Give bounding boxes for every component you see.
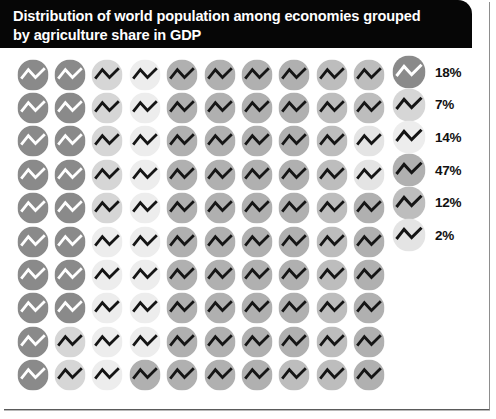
waffle-cell — [164, 91, 201, 124]
waffle-cell — [51, 325, 88, 358]
waffle-cell — [276, 158, 313, 191]
waffle-cell — [164, 192, 201, 225]
waffle-cell — [14, 292, 51, 325]
waffle-cell — [126, 258, 163, 291]
legend-item[interactable]: 18% — [392, 56, 484, 89]
waffle-cell — [351, 58, 388, 91]
waffle-cell — [238, 258, 275, 291]
waffle-cell — [126, 125, 163, 158]
waffle-cell — [201, 91, 238, 124]
waffle-cell — [238, 58, 275, 91]
waffle-cell — [89, 225, 126, 258]
waffle-cell — [89, 292, 126, 325]
waffle-cell — [14, 258, 51, 291]
legend-swatch-zigzag-line-icon — [392, 120, 426, 154]
waffle-cell — [313, 359, 350, 392]
waffle-cell — [51, 91, 88, 124]
waffle-cell — [238, 292, 275, 325]
waffle-cell — [201, 225, 238, 258]
waffle-cell — [238, 91, 275, 124]
waffle-cell — [51, 292, 88, 325]
waffle-cell — [276, 192, 313, 225]
waffle-cell — [276, 225, 313, 258]
waffle-cell — [351, 125, 388, 158]
waffle-cell — [89, 325, 126, 358]
waffle-cell — [126, 325, 163, 358]
waffle-cell — [89, 192, 126, 225]
waffle-cell — [164, 125, 201, 158]
waffle-cell — [351, 359, 388, 392]
legend-item[interactable]: 7% — [392, 89, 484, 122]
waffle-cell — [238, 192, 275, 225]
waffle-cell — [164, 325, 201, 358]
legend-label: 47% — [435, 163, 461, 178]
waffle-cell — [126, 359, 163, 392]
waffle-cell — [14, 325, 51, 358]
waffle-cell — [201, 125, 238, 158]
legend-item[interactable]: 14% — [392, 121, 484, 154]
waffle-cell — [201, 292, 238, 325]
waffle-cell — [89, 125, 126, 158]
waffle-cell — [313, 91, 350, 124]
title-band: Distribution of world population among e… — [0, 0, 472, 48]
waffle-cell — [89, 58, 126, 91]
waffle-grid — [14, 58, 388, 392]
waffle-cell — [313, 192, 350, 225]
waffle-cell — [14, 125, 51, 158]
waffle-cell — [201, 359, 238, 392]
legend-swatch-zigzag-line-icon — [392, 88, 426, 122]
waffle-cell — [351, 292, 388, 325]
page-title: Distribution of world population among e… — [13, 7, 462, 45]
waffle-cell — [14, 58, 51, 91]
legend-swatch-zigzag-line-icon — [392, 218, 426, 252]
legend-label: 14% — [435, 130, 461, 145]
waffle-cell — [201, 58, 238, 91]
waffle-cell — [276, 325, 313, 358]
waffle-cell — [164, 258, 201, 291]
legend-item[interactable]: 47% — [392, 154, 484, 187]
waffle-cell — [276, 58, 313, 91]
waffle-cell — [351, 225, 388, 258]
waffle-cell — [14, 192, 51, 225]
chart-legend: 18%7%14%47%12%2% — [392, 56, 484, 252]
waffle-cell — [14, 225, 51, 258]
waffle-cell — [126, 225, 163, 258]
waffle-cell — [351, 258, 388, 291]
legend-item[interactable]: 12% — [392, 186, 484, 219]
legend-swatch-zigzag-line-icon — [392, 153, 426, 187]
legend-swatch-zigzag-line-icon — [392, 55, 426, 89]
waffle-cell — [276, 359, 313, 392]
waffle-cell — [238, 158, 275, 191]
waffle-cell — [201, 325, 238, 358]
waffle-cell — [276, 258, 313, 291]
waffle-cell — [51, 359, 88, 392]
waffle-cell — [238, 359, 275, 392]
waffle-cell — [51, 58, 88, 91]
waffle-cell — [351, 192, 388, 225]
legend-label: 7% — [435, 97, 454, 112]
waffle-cell — [51, 158, 88, 191]
waffle-cell — [313, 225, 350, 258]
waffle-cell — [351, 91, 388, 124]
legend-label: 12% — [435, 195, 461, 210]
waffle-cell — [201, 158, 238, 191]
waffle-cell — [238, 325, 275, 358]
waffle-cell — [164, 158, 201, 191]
legend-swatch-zigzag-line-icon — [392, 186, 426, 220]
waffle-cell — [164, 359, 201, 392]
waffle-cell — [351, 158, 388, 191]
chart-body: 18%7%14%47%12%2% — [0, 48, 496, 419]
waffle-cell — [313, 125, 350, 158]
waffle-cell — [89, 91, 126, 124]
waffle-cell — [201, 192, 238, 225]
waffle-cell — [313, 158, 350, 191]
waffle-cell — [126, 91, 163, 124]
legend-label: 2% — [435, 228, 454, 243]
waffle-cell — [89, 158, 126, 191]
waffle-cell — [164, 292, 201, 325]
waffle-cell — [14, 158, 51, 191]
waffle-cell — [313, 58, 350, 91]
waffle-cell — [89, 258, 126, 291]
legend-item[interactable]: 2% — [392, 219, 484, 252]
waffle-cell — [126, 158, 163, 191]
